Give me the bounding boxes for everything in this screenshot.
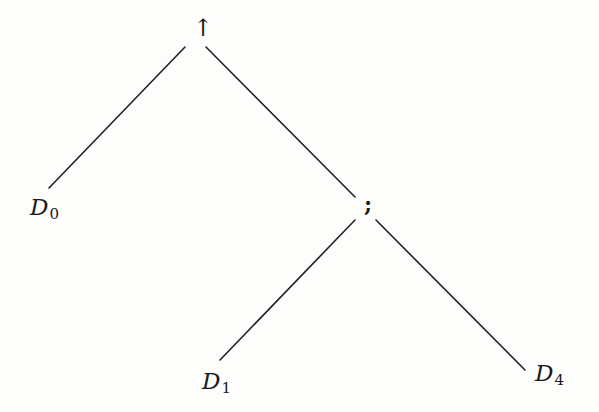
leaf-node-d1: D1 (202, 370, 231, 396)
edge-root-d0 (49, 47, 185, 188)
leaf-subscript: 4 (554, 371, 564, 389)
leaf-label: D (202, 368, 220, 394)
leaf-subscript: 1 (221, 379, 231, 397)
leaf-node-d4: D4 (535, 362, 564, 388)
semicolon-label: ; (364, 191, 372, 217)
sequence-node-semicolon: ; (364, 193, 372, 215)
root-node-up-arrow: ↑ (193, 16, 213, 40)
leaf-label: D (535, 360, 553, 386)
tree-edges (0, 0, 599, 412)
up-arrow-icon: ↑ (193, 14, 213, 42)
edge-seq-d4 (376, 220, 525, 370)
edge-root-seq (206, 47, 355, 197)
edge-seq-d1 (220, 220, 355, 360)
leaf-subscript: 0 (49, 205, 59, 223)
leaf-node-d0: D0 (30, 196, 59, 222)
leaf-label: D (30, 194, 48, 220)
